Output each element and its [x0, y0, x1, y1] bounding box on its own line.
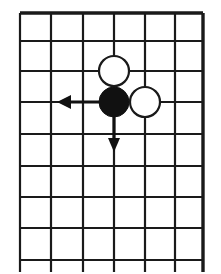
- go-board-canvas: [0, 0, 221, 274]
- go-board-diagram: [0, 0, 221, 274]
- white-stone-right: [130, 87, 160, 117]
- white-stone-upper: [99, 56, 129, 86]
- black-stone: [99, 87, 129, 117]
